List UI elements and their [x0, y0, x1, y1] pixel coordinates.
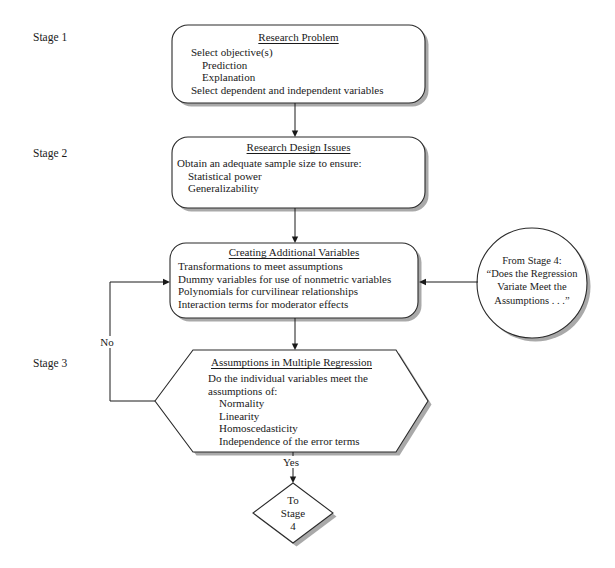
- body-line: Obtain an adequate sample size to ensure…: [177, 157, 362, 170]
- research-design-title: Research Design Issues: [172, 141, 425, 153]
- body-line: Dummy variables for use of nonmetric var…: [178, 273, 391, 286]
- body-line: Prediction: [191, 59, 383, 72]
- circle-line: “Does the Regression: [467, 267, 597, 280]
- yes-edge-label: Yes: [276, 456, 306, 468]
- body-line: Select objective(s): [191, 46, 383, 59]
- arrowhead-into-stage2: [292, 131, 298, 138]
- arrowhead-noloop-into-variables: [163, 279, 170, 285]
- from-stage4-circle-text: From Stage 4: “Does the Regression Varia…: [467, 254, 597, 307]
- assumptions-title: Assumptions in Multiple Regression: [211, 356, 372, 368]
- body-line: Linearity: [208, 410, 368, 423]
- body-line: Interaction terms for moderator effects: [178, 298, 391, 311]
- stage-1-label: Stage 1: [33, 31, 67, 43]
- arrowhead-into-diamond: [290, 477, 296, 484]
- diamond-line: 4: [263, 520, 323, 533]
- body-line: Generalizability: [177, 182, 362, 195]
- body-line: Homoscedasticity: [208, 422, 368, 435]
- body-line: assumptions of:: [208, 385, 368, 398]
- diamond-line: To: [263, 494, 323, 507]
- assumptions-body: Do the individual variables meet the ass…: [208, 372, 368, 448]
- research-problem-body: Select objective(s) Prediction Explanati…: [191, 46, 383, 96]
- to-stage4-diamond-text: To Stage 4: [263, 494, 323, 533]
- body-line: Select dependent and independent variabl…: [191, 84, 383, 97]
- body-line: Do the individual variables meet the: [208, 372, 368, 385]
- flowchart-figure: Stage 1 Stage 2 Stage 3 Research Problem…: [0, 0, 615, 568]
- body-line: Transformations to meet assumptions: [178, 260, 391, 273]
- creating-variables-body: Transformations to meet assumptions Dumm…: [178, 260, 391, 310]
- body-line: Independence of the error terms: [208, 435, 368, 448]
- stage-3-label: Stage 3: [33, 357, 67, 369]
- circle-line: Assumptions . . .”: [467, 294, 597, 307]
- creating-variables-title: Creating Additional Variables: [170, 246, 418, 258]
- diamond-line: Stage: [263, 507, 323, 520]
- circle-line: Variate Meet the: [467, 280, 597, 293]
- body-line: Statistical power: [177, 170, 362, 183]
- arrowhead-into-assumptions: [292, 344, 298, 351]
- research-design-body: Obtain an adequate sample size to ensure…: [177, 157, 362, 195]
- body-line: Polynomials for curvilinear relationship…: [178, 285, 391, 298]
- body-line: Explanation: [191, 71, 383, 84]
- body-line: Normality: [208, 397, 368, 410]
- research-problem-title: Research Problem: [172, 31, 425, 43]
- no-edge-label: No: [95, 336, 119, 348]
- arrowhead-into-variables: [292, 237, 298, 244]
- circle-line: From Stage 4:: [467, 254, 597, 267]
- stage-2-label: Stage 2: [33, 147, 67, 159]
